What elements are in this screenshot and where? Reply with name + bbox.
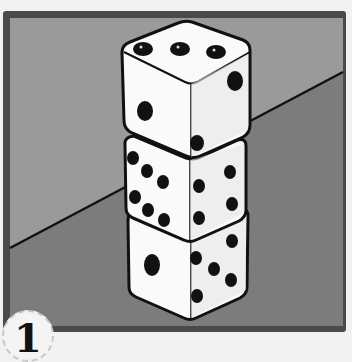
die-top: [122, 21, 250, 157]
step-number: 1: [14, 318, 42, 358]
